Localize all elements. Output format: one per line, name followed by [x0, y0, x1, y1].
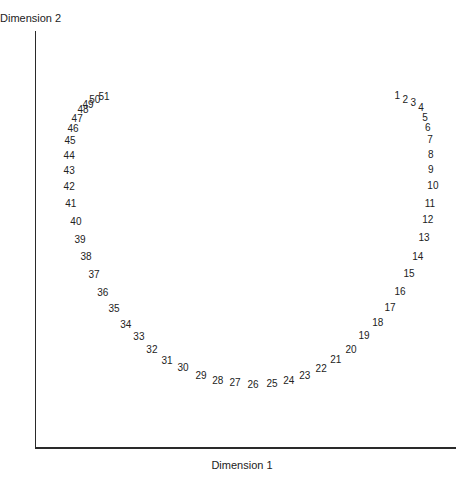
mds-scatter-chart: Dimension 2 Dimension 1 1234567891011121… [0, 0, 464, 480]
point-label: 23 [299, 371, 310, 381]
point-label: 6 [425, 123, 431, 133]
point-label: 44 [64, 151, 75, 161]
point-label: 22 [316, 364, 327, 374]
point-label: 20 [345, 345, 356, 355]
point-label: 17 [384, 303, 395, 313]
point-label: 29 [195, 371, 206, 381]
point-label: 45 [64, 136, 75, 146]
y-axis-line [35, 31, 36, 449]
point-label: 39 [75, 235, 86, 245]
point-label: 10 [427, 181, 438, 191]
point-label: 38 [80, 252, 91, 262]
y-axis-label: Dimension 2 [0, 12, 61, 24]
point-label: 27 [230, 378, 241, 388]
point-label: 11 [425, 199, 435, 209]
point-label: 12 [422, 215, 433, 225]
point-label: 25 [266, 379, 277, 389]
point-label: 14 [412, 252, 423, 262]
point-label: 1 [394, 91, 400, 101]
point-label: 41 [65, 199, 76, 209]
point-label: 18 [372, 318, 383, 328]
point-label: 34 [120, 320, 131, 330]
point-label: 33 [133, 332, 144, 342]
point-label: 26 [248, 380, 259, 390]
point-label: 32 [146, 345, 157, 355]
point-label: 15 [403, 269, 414, 279]
point-label: 36 [97, 288, 108, 298]
x-axis-line [35, 447, 456, 449]
point-label: 51 [98, 92, 109, 102]
point-label: 7 [427, 135, 433, 145]
point-label: 21 [330, 355, 341, 365]
point-label: 43 [64, 166, 75, 176]
point-label: 2 [402, 95, 408, 105]
x-axis-label: Dimension 1 [0, 459, 464, 471]
point-label: 19 [358, 331, 369, 341]
point-label: 30 [177, 363, 188, 373]
point-label: 42 [64, 182, 75, 192]
point-label: 16 [395, 287, 406, 297]
point-label: 24 [283, 376, 294, 386]
point-label: 47 [72, 114, 83, 124]
point-label: 28 [212, 376, 223, 386]
point-label: 46 [67, 124, 78, 134]
point-label: 37 [88, 270, 99, 280]
point-label: 3 [410, 98, 416, 108]
point-label: 8 [428, 150, 434, 160]
point-label: 35 [109, 304, 120, 314]
point-label: 40 [70, 217, 81, 227]
point-label: 31 [161, 356, 172, 366]
point-label: 13 [419, 233, 430, 243]
point-label: 9 [428, 165, 434, 175]
